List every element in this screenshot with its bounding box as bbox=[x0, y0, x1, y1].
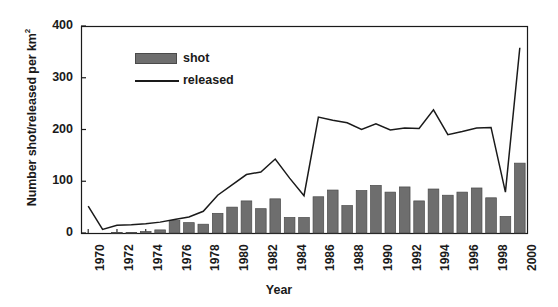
bar-1981 bbox=[241, 201, 252, 233]
legend-swatch-shot-icon bbox=[135, 53, 177, 64]
bar-1979 bbox=[212, 213, 223, 233]
chart-figure: Number shot/released per km2 Year 010020… bbox=[0, 0, 558, 307]
x-axis-tick-label: 1984 bbox=[296, 244, 308, 271]
bar-1978 bbox=[198, 224, 209, 233]
bar-1972 bbox=[112, 232, 123, 233]
y-axis-tick-label: 100 bbox=[33, 174, 73, 187]
bar-1980 bbox=[227, 207, 238, 233]
x-axis-tick-label: 1978 bbox=[209, 244, 221, 271]
bar-1990 bbox=[371, 185, 382, 233]
x-axis-tick-label: 1994 bbox=[439, 244, 451, 271]
bar-1997 bbox=[471, 188, 482, 233]
y-axis-tick-label: 400 bbox=[33, 19, 73, 32]
bar-1983 bbox=[270, 199, 281, 233]
bar-1992 bbox=[399, 187, 410, 233]
x-axis-tick-label: 1996 bbox=[468, 244, 480, 271]
x-axis-tick-label: 1988 bbox=[353, 244, 365, 271]
y-axis-tick-label: 300 bbox=[33, 71, 73, 84]
x-axis-tick-label: 1982 bbox=[267, 244, 279, 271]
x-axis-tick-label: 1970 bbox=[94, 244, 106, 271]
bar-1991 bbox=[385, 192, 396, 233]
bar-1974 bbox=[140, 231, 151, 233]
bar-1988 bbox=[342, 206, 353, 233]
bar-1996 bbox=[457, 192, 468, 233]
x-axis-tick-label: 1998 bbox=[497, 244, 509, 271]
bar-1976 bbox=[169, 221, 180, 233]
x-axis-tick-label: 1972 bbox=[123, 244, 135, 271]
bar-1982 bbox=[256, 209, 267, 233]
bar-1977 bbox=[184, 223, 195, 233]
legend-label-released: released bbox=[183, 73, 234, 87]
bar-1975 bbox=[155, 230, 166, 233]
y-axis-tick-label: 200 bbox=[33, 123, 73, 136]
line-released bbox=[88, 48, 520, 230]
x-axis-tick-label: 1990 bbox=[382, 244, 394, 271]
bar-1998 bbox=[486, 198, 497, 233]
bar-1985 bbox=[299, 217, 310, 233]
x-axis-tick-label: 1976 bbox=[181, 244, 193, 271]
x-axis-tick-label: 1980 bbox=[238, 244, 250, 271]
bar-2000 bbox=[514, 163, 525, 233]
x-axis-tick-label: 1992 bbox=[411, 244, 423, 271]
x-axis-tick-label: 1974 bbox=[152, 244, 164, 271]
bar-1986 bbox=[313, 197, 324, 233]
bar-1993 bbox=[414, 201, 425, 233]
bar-1994 bbox=[428, 189, 439, 233]
bar-1995 bbox=[443, 195, 454, 233]
bar-1973 bbox=[126, 232, 137, 233]
bar-1989 bbox=[356, 191, 367, 233]
y-axis-tick-label: 0 bbox=[33, 226, 73, 239]
x-axis-tick-label: 1986 bbox=[324, 244, 336, 271]
bar-1984 bbox=[284, 217, 295, 233]
legend-swatch-released-icon bbox=[135, 80, 179, 82]
legend-label-shot: shot bbox=[183, 51, 209, 65]
bar-1999 bbox=[500, 216, 511, 233]
bar-1987 bbox=[327, 190, 338, 233]
x-axis-tick-label: 2000 bbox=[526, 244, 538, 271]
